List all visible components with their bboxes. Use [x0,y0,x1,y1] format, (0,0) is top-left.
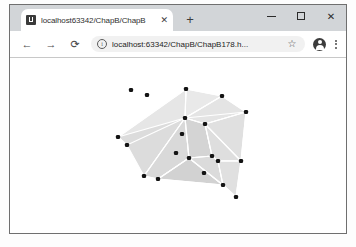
maximize-button[interactable] [286,5,316,27]
tab-strip: localhost63342/ChapB/ChapB ✕ + ✕ [10,5,346,31]
mesh-point [210,154,214,158]
mesh-point [116,135,120,139]
mesh-point [220,94,224,98]
point-mesh-figure [10,58,346,234]
minimize-icon [267,16,276,17]
mesh-point [125,143,129,147]
close-tab-icon[interactable]: ✕ [160,16,168,25]
back-button[interactable]: ← [17,34,37,54]
mesh-point [187,156,191,160]
mesh-point [183,116,187,120]
mesh-point [180,132,184,136]
mesh-point [221,183,225,187]
mesh-point [202,171,206,175]
site-info-icon[interactable]: i [97,39,107,49]
mesh-point [203,122,207,126]
browser-toolbar: ← → ⟳ i localhost:63342/ChapB/ChapB178.h… [10,31,346,58]
mesh-point [156,177,160,181]
mesh-point [184,87,188,91]
page-viewport [10,58,346,234]
browser-window: localhost63342/ChapB/ChapB ✕ + ✕ ← → ⟳ i [9,4,347,234]
maximize-icon [297,12,305,20]
address-bar[interactable]: i localhost:63342/ChapB/ChapB178.h... ☆ [91,36,305,52]
reload-button[interactable]: ⟳ [65,34,85,54]
mesh-point [145,93,149,97]
mesh-point [142,174,146,178]
url-text[interactable]: localhost:63342/ChapB/ChapB178.h... [112,40,285,49]
forward-button[interactable]: → [41,34,61,54]
profile-avatar-icon[interactable] [313,38,326,51]
mesh-point [216,159,220,163]
window-controls: ✕ [256,5,346,31]
mesh-point [244,110,248,114]
chrome-menu-icon[interactable] [330,40,342,49]
page-favicon [26,15,36,25]
tab-title: localhost63342/ChapB/ChapB [41,16,157,25]
mesh-point [129,88,133,92]
mesh-point [234,195,238,199]
browser-tab[interactable]: localhost63342/ChapB/ChapB ✕ [21,9,173,31]
mesh-point [239,159,243,163]
new-tab-button[interactable]: + [182,12,198,28]
screenshot-root: localhost63342/ChapB/ChapB ✕ + ✕ ← → ⟳ i [0,0,356,247]
close-window-button[interactable]: ✕ [316,5,346,27]
bookmark-star-icon[interactable]: ☆ [285,37,299,51]
mesh-point [174,151,178,155]
minimize-button[interactable] [256,5,286,27]
